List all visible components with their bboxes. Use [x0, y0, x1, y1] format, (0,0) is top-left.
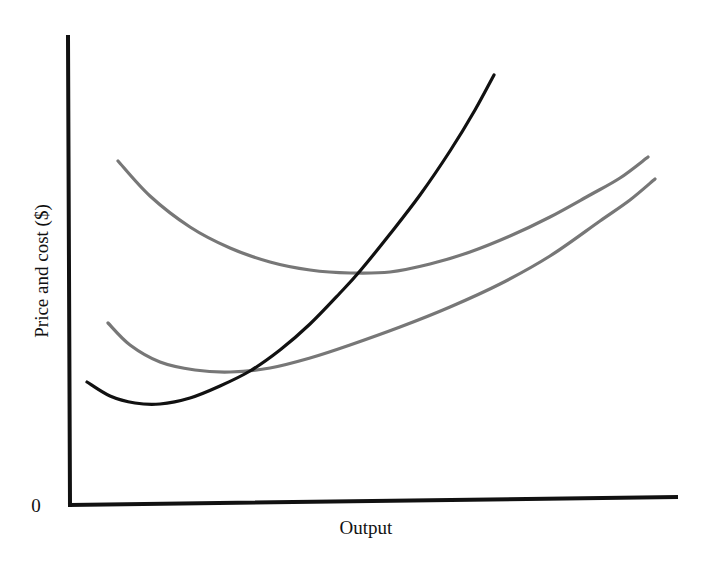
y-axis — [68, 37, 70, 505]
x-axis-label: Output — [340, 517, 394, 538]
avc-curve — [108, 179, 655, 372]
atc-curve — [118, 157, 648, 273]
curves-group — [87, 75, 655, 404]
cost-curves-chart: 0 Output Price and cost ($) — [0, 0, 702, 570]
x-axis — [70, 497, 676, 505]
chart-canvas: 0 Output Price and cost ($) — [0, 0, 702, 570]
y-axis-label: Price and cost ($) — [31, 204, 53, 337]
origin-label: 0 — [31, 495, 41, 516]
